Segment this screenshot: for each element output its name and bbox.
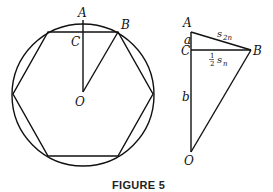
figure-canvas: A B C O A a C B b O s 2n 1 2 s n FIGURE … (0, 0, 273, 192)
svg-text:1: 1 (210, 52, 214, 60)
left-diagram: A B C O (12, 6, 154, 166)
svg-text:2: 2 (210, 60, 214, 68)
label-B: B (120, 18, 130, 32)
right-diagram: A a C B b O s 2n 1 2 s n (181, 16, 262, 168)
label-B: B (252, 44, 262, 58)
svg-text:s: s (217, 28, 222, 39)
label-half-sn: 1 2 s n (209, 52, 228, 68)
svg-text:s: s (217, 54, 222, 65)
figure-caption: FIGURE 5 (112, 179, 165, 191)
label-A: A (182, 16, 192, 30)
label-C: C (181, 44, 190, 58)
svg-text:n: n (223, 60, 228, 68)
label-A: A (77, 6, 87, 20)
label-O: O (75, 95, 85, 109)
segment-BO (191, 50, 251, 152)
label-O: O (184, 154, 194, 168)
svg-text:2n: 2n (222, 34, 232, 42)
label-C: C (71, 35, 80, 49)
radius-OB (83, 32, 118, 92)
label-b: b (182, 90, 190, 104)
